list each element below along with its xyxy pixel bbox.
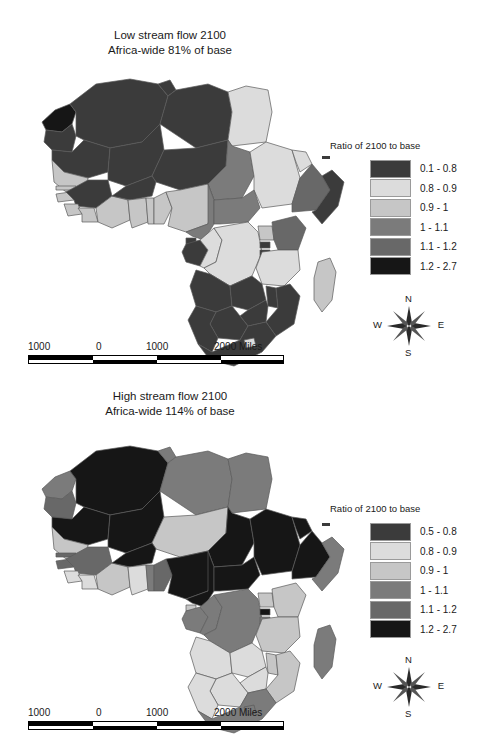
- legend-title: Ratio of 2100 to base: [330, 140, 457, 151]
- legend-label: 0.8 - 0.9: [420, 183, 457, 194]
- legend-label: 0.8 - 0.9: [420, 546, 457, 557]
- country-kenya: [272, 583, 306, 617]
- scale-bar-graphic: [28, 355, 284, 364]
- legend-row: 0.1 - 0.8: [370, 159, 457, 179]
- country-ghana: [128, 565, 148, 595]
- legend-label: 0.9 - 1: [420, 202, 448, 213]
- scale-tick: 2000 Miles: [214, 341, 262, 352]
- legend-swatch: [370, 218, 411, 236]
- country-liberia: [78, 575, 98, 589]
- legend-label: 1.1 - 1.2: [420, 604, 457, 615]
- compass-east-label: E: [438, 319, 444, 330]
- country-uganda: [258, 593, 274, 607]
- legend-label: 0.1 - 0.8: [420, 163, 457, 174]
- scale-bar-graphic: [28, 721, 284, 730]
- legend-label: 0.9 - 1: [420, 565, 448, 576]
- compass-west-label: W: [373, 319, 382, 330]
- scale-tick: 1000: [28, 341, 50, 352]
- legend-rows: 0.5 - 0.8 0.8 - 0.9 0.9 - 1 1 - 1.1 1.1 …: [370, 522, 457, 639]
- country-liberia: [78, 208, 98, 222]
- scale-bar-high: 1000 0 1000 2000 Miles: [28, 707, 284, 730]
- country-uganda: [258, 226, 274, 240]
- scale-tick-labels: 1000 0 1000 2000 Miles: [28, 341, 284, 354]
- country-ghana: [128, 198, 148, 228]
- island-socotra: [322, 156, 330, 159]
- legend-swatch: [370, 542, 411, 560]
- figure-root: Low stream flow 2100 Africa-wide 81% of …: [0, 0, 480, 734]
- scale-tick: 0: [96, 341, 102, 352]
- compass-south-label: S: [405, 708, 411, 719]
- scale-bar-low: 1000 0 1000 2000 Miles: [28, 341, 284, 364]
- legend-row: 1.1 - 1.2: [370, 600, 457, 620]
- legend-row: 0.8 - 0.9: [370, 542, 457, 562]
- legend-high: Ratio of 2100 to base 0.5 - 0.8 0.8 - 0.…: [330, 503, 457, 639]
- legend-row: 1.2 - 2.7: [370, 620, 457, 640]
- map-panel-low-stream-flow: Low stream flow 2100 Africa-wide 81% of …: [0, 0, 480, 367]
- legend-label: 1.1 - 1.2: [420, 241, 457, 252]
- map-panel-high-stream-flow: High stream flow 2100 Africa-wide 114% o…: [0, 367, 480, 734]
- legend-row: 1 - 1.1: [370, 581, 457, 601]
- compass-north-label: N: [405, 654, 412, 665]
- legend-label: 1 - 1.1: [420, 222, 448, 233]
- compass-west-label: W: [373, 680, 382, 691]
- compass-east-label: E: [438, 680, 444, 691]
- legend-title: Ratio of 2100 to base: [330, 503, 457, 514]
- scale-tick-labels: 1000 0 1000 2000 Miles: [28, 707, 284, 720]
- legend-swatch: [370, 199, 411, 217]
- compass-south-label: S: [405, 347, 411, 358]
- scale-tick: 2000 Miles: [214, 707, 262, 718]
- country-rwanda: [260, 242, 270, 248]
- legend-row: 1.2 - 2.7: [370, 257, 457, 277]
- country-libya: [160, 84, 232, 148]
- country-tanzania: [256, 250, 300, 286]
- island-socotra: [322, 523, 330, 526]
- country-egypt: [228, 453, 272, 513]
- country-tanzania: [256, 617, 300, 653]
- country-egypt: [228, 86, 272, 146]
- legend-row: 0.9 - 1: [370, 561, 457, 581]
- legend-swatch: [370, 179, 411, 197]
- scale-tick: 0: [96, 707, 102, 718]
- legend-swatch: [370, 238, 411, 256]
- legend-row: 0.8 - 0.9: [370, 179, 457, 199]
- compass-rose-high: N S W E: [374, 655, 444, 717]
- scale-tick: 1000: [146, 707, 168, 718]
- legend-swatch: [370, 581, 411, 599]
- legend-swatch: [370, 620, 411, 638]
- country-kenya: [272, 216, 306, 250]
- scale-tick: 1000: [146, 341, 168, 352]
- compass-star-icon: [387, 306, 431, 346]
- compass-rose-low: N S W E: [374, 294, 444, 356]
- legend-row: 1 - 1.1: [370, 218, 457, 238]
- compass-star-icon: [387, 667, 431, 707]
- legend-swatch: [370, 562, 411, 580]
- legend-label: 1 - 1.1: [420, 585, 448, 596]
- legend-row: 1.1 - 1.2: [370, 237, 457, 257]
- legend-label: 1.2 - 2.7: [420, 624, 457, 635]
- legend-row: 0.5 - 0.8: [370, 522, 457, 542]
- scale-tick: 1000: [28, 707, 50, 718]
- country-libya: [160, 451, 232, 515]
- legend-row: 0.9 - 1: [370, 198, 457, 218]
- legend-rows: 0.1 - 0.8 0.8 - 0.9 0.9 - 1 1 - 1.1 1.1 …: [370, 159, 457, 276]
- legend-label: 0.5 - 0.8: [420, 526, 457, 537]
- legend-swatch: [370, 160, 411, 178]
- legend-swatch: [370, 257, 411, 275]
- legend-swatch: [370, 601, 411, 619]
- compass-north-label: N: [405, 293, 412, 304]
- legend-low: Ratio of 2100 to base 0.1 - 0.8 0.8 - 0.…: [330, 140, 457, 276]
- country-rwanda: [260, 609, 270, 615]
- legend-swatch: [370, 523, 411, 541]
- legend-label: 1.2 - 2.7: [420, 261, 457, 272]
